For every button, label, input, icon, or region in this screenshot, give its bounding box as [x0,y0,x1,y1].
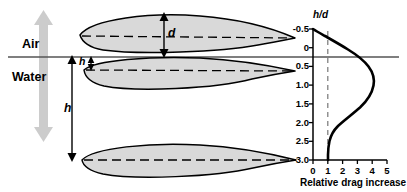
water-label: Water [12,71,46,84]
chart-y-tick-label: 1.5 [285,99,309,109]
chart-x-tick-label: 4 [364,166,380,176]
chart-x-tick-label: 2 [335,166,351,176]
chart-y-tick-label: 1.0 [285,80,309,90]
chart-x-tick-label: 5 [379,166,395,176]
chart-y-tick-label: 2.5 [285,136,309,146]
thickness-label: d [168,27,175,39]
chart-y-axis-title: h/d [313,10,328,20]
chart-x-tick-label: 0 [305,166,321,176]
chart-y-tick-label: -0.5 [285,24,309,34]
chart-y-tick-label: 3.0 [285,155,309,165]
chart-x-tick-label: 3 [349,166,365,176]
chart-x-tick-label: 1 [320,166,336,176]
chart-x-axis-title: Relative drag increase [300,178,406,188]
chart-y-tick-label: 0 [285,43,309,53]
large-submergence-label: h [64,102,71,114]
drag-chart-canvas [0,0,407,192]
air-label: Air [22,38,39,51]
drag-curve [313,29,374,160]
small-submergence-label: h [79,56,85,67]
chart-y-tick-label: 0.5 [285,61,309,71]
hydrofoil-drag-figure: Air Water d h h h/d -0.5 0 0.5 1.0 1.5 2… [0,0,407,192]
chart-y-tick-label: 2.0 [285,118,309,128]
